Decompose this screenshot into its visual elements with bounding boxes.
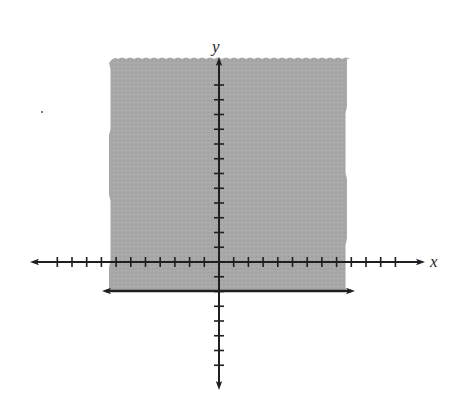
shaded-region xyxy=(109,58,350,292)
y-axis-label: y xyxy=(210,37,220,56)
x-axis-label: x xyxy=(429,252,438,271)
scan-speck xyxy=(41,111,43,113)
inequality-graph: x y xyxy=(0,0,469,415)
